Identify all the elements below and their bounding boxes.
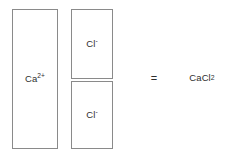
diagram-canvas: Ca2+ Cl- Cl- = CaCl2 — [0, 0, 231, 157]
chloride-ion-box-2: Cl- — [71, 81, 113, 149]
calcium-ion-label: Ca2+ — [25, 74, 45, 84]
product-formula-base: CaCl — [189, 73, 211, 83]
product-formula: CaCl2 — [178, 70, 226, 86]
chloride-charge-superscript-1: - — [95, 37, 97, 44]
chloride-ion-box-1: Cl- — [71, 9, 113, 79]
calcium-element-symbol: Ca — [25, 73, 37, 84]
equals-sign: = — [143, 70, 165, 86]
calcium-charge-superscript: 2+ — [37, 72, 45, 79]
chloride-ion-label-1: Cl- — [86, 39, 97, 49]
chloride-ion-label-2: Cl- — [86, 110, 97, 120]
calcium-ion-box: Ca2+ — [12, 9, 58, 149]
chloride-charge-superscript-2: - — [95, 108, 97, 115]
